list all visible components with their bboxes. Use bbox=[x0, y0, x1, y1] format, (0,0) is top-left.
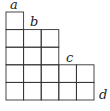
diagram-cell bbox=[41, 82, 59, 100]
label-c: c bbox=[66, 50, 74, 65]
diagram-cell bbox=[59, 65, 77, 83]
label-b: b bbox=[30, 14, 38, 29]
diagram-cell bbox=[6, 12, 24, 30]
diagram-cell bbox=[41, 30, 59, 48]
diagram-cell bbox=[59, 82, 77, 100]
diagram-cell bbox=[6, 30, 24, 48]
label-d: d bbox=[99, 87, 107, 102]
diagram-cell bbox=[76, 82, 94, 100]
diagram-cell bbox=[6, 65, 24, 83]
diagram-cell bbox=[41, 47, 59, 65]
diagram-cell bbox=[24, 82, 42, 100]
label-a: a bbox=[10, 0, 18, 12]
diagram-cell bbox=[24, 47, 42, 65]
diagram-cells bbox=[6, 12, 94, 100]
young-diagram: a b c d bbox=[0, 0, 110, 111]
diagram-cell bbox=[24, 30, 42, 48]
diagram-cell bbox=[41, 65, 59, 83]
diagram-cell bbox=[76, 65, 94, 83]
diagram-cell bbox=[6, 82, 24, 100]
diagram-cell bbox=[6, 47, 24, 65]
diagram-cell bbox=[24, 65, 42, 83]
